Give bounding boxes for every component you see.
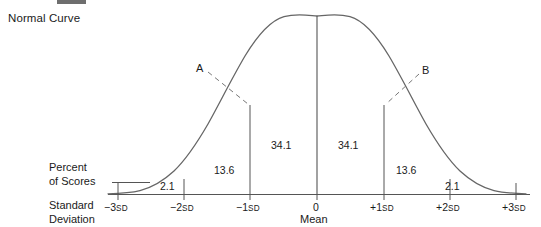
tick-unit-plus3: SD (514, 204, 526, 213)
percent-of-scores-label: Percent of Scores (49, 161, 95, 188)
axis-tick-label-minus2sd: −2SD (170, 201, 194, 215)
axis-tick-label-plus2sd: +2SD (436, 201, 460, 215)
tick-unit-plus1: SD (382, 204, 394, 213)
callout-label-a: A (196, 62, 203, 75)
percent-of-scores-line2: of Scores (49, 175, 95, 189)
tick-value-plus2: +2 (436, 201, 448, 213)
callout-b-leader (386, 74, 419, 104)
tick-value-minus3: −3 (104, 201, 116, 213)
normal-curve-plot (0, 0, 541, 227)
tick-value-plus3: +3 (502, 201, 514, 213)
mean-label: Mean (300, 213, 328, 226)
axis-tick-label-minus3sd: −3SD (104, 201, 128, 215)
callout-label-b: B (422, 64, 429, 77)
axis-tick-label-plus1sd: +1SD (370, 201, 394, 215)
segment-value-plus1-plus2: 13.6 (396, 164, 416, 177)
axis-tick-label-plus3sd: +3SD (502, 201, 526, 215)
standard-deviation-line1: Standard (49, 199, 95, 213)
standard-deviation-label: Standard Deviation (49, 199, 95, 226)
tick-unit-minus2: SD (182, 204, 194, 213)
segment-value-minus1-mean: 34.1 (271, 139, 291, 152)
standard-deviation-line2: Deviation (49, 213, 95, 227)
segment-value-minus3-minus2: 2.1 (160, 180, 175, 193)
segment-value-plus2-plus3: 2.1 (445, 180, 460, 193)
tick-value-minus2: −2 (170, 201, 182, 213)
percent-of-scores-line1: Percent (49, 161, 95, 175)
axis-tick-label-minus1sd: −1SD (236, 201, 260, 215)
segment-value-minus2-minus1: 13.6 (214, 164, 234, 177)
tick-value-plus1: +1 (370, 201, 382, 213)
tick-unit-minus3: SD (116, 204, 128, 213)
segment-value-mean-plus1: 34.1 (338, 139, 358, 152)
tick-unit-minus1: SD (248, 204, 260, 213)
tick-value-minus1: −1 (236, 201, 248, 213)
tick-unit-plus2: SD (448, 204, 460, 213)
normal-curve-figure: Normal Curve A B 2.1 13.6 34.1 34.1 13.6 (0, 0, 541, 227)
